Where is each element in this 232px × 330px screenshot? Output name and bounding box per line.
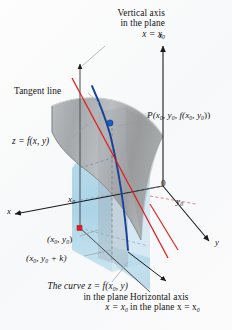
- horizontal-axis-caption-line1: Horizontal axis: [130, 292, 200, 302]
- y-zero-label: y0: [176, 196, 183, 207]
- figure-canvas: Vertical axis in the plane x = x0 z Tang…: [0, 0, 232, 330]
- point-P-marker: [107, 120, 113, 126]
- horizontal-axis-caption: Horizontal axis in the plane x = x0: [130, 292, 200, 313]
- curve-caption-line2: in the plane: [2, 292, 128, 302]
- vertical-axis-label-line1: Vertical axis: [61, 8, 165, 18]
- plane-surface-overlay: [98, 106, 128, 268]
- point-x0y0-label: (x0, y0): [47, 234, 72, 245]
- vertical-axis-label-line2: in the plane: [61, 18, 165, 28]
- curve-caption: The curve z = f(x0, y) in the plane x = …: [2, 281, 128, 314]
- horizontal-axis-caption-line2: in the plane x = x0: [130, 302, 200, 313]
- vertical-axis-label: Vertical axis in the plane x = x0: [61, 8, 165, 40]
- x-zero-label: x0: [68, 194, 75, 205]
- secant-segment: [150, 204, 178, 250]
- tangent-line-label: Tangent line: [14, 86, 61, 96]
- x-axis-label: x: [7, 207, 11, 217]
- surface-equation-label: z = f(x, y): [12, 136, 49, 146]
- point-x0y0k-label: (x0, y0 + k): [26, 253, 67, 264]
- curve-caption-line3: x = x0: [2, 302, 128, 313]
- origin-label: 0: [161, 178, 166, 188]
- point-x0y0-marker: [77, 226, 82, 231]
- point-P-label: P(x0, y0, f(x0, y0)): [147, 110, 210, 121]
- curve-caption-line1: The curve z = f(x0, y): [2, 281, 128, 292]
- z-axis-label: z: [159, 31, 162, 41]
- y-axis: [163, 186, 209, 241]
- y-axis-label: y: [215, 238, 219, 248]
- vertical-axis-label-line3: x = x0: [61, 29, 165, 40]
